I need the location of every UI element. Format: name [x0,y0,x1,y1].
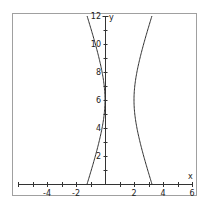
y-tick-label: 6 [96,96,101,105]
x-tick-label: -2 [72,189,80,198]
x-tick-label: 4 [160,189,165,198]
x-tick-label: 6 [189,189,194,198]
y-axis-label: y [109,13,114,22]
y-tick-label: 2 [96,152,101,161]
x-tick-label: -4 [43,189,51,198]
right-branch [134,16,152,184]
y-tick-label: 8 [96,68,101,77]
y-tick-label: 4 [96,124,101,133]
x-axis-label: x [188,172,193,181]
graph-plot: -4-2246 24681012 x y [0,0,207,208]
x-tick-label: 2 [131,189,136,198]
y-tick-label: 12 [91,12,101,21]
